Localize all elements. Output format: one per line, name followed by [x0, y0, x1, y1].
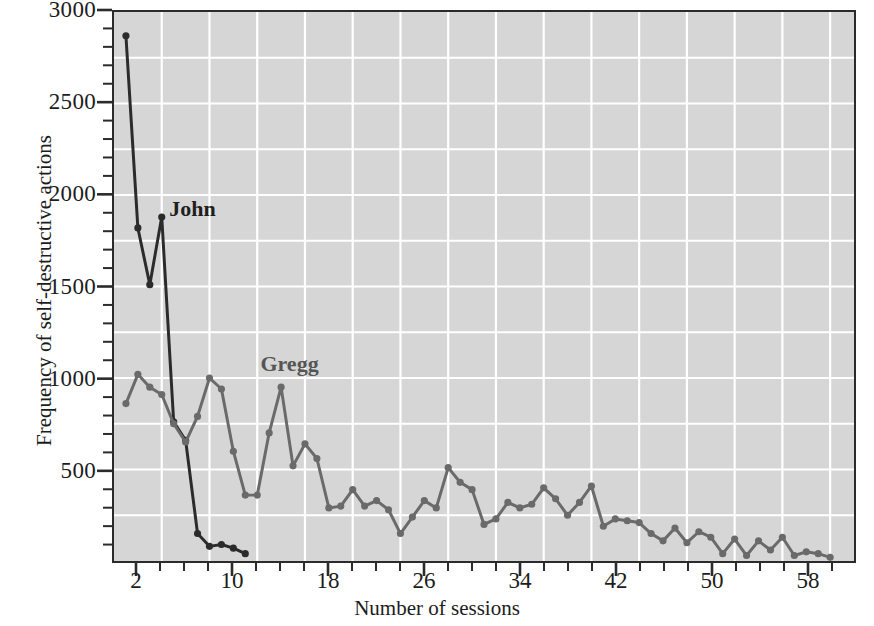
series-layer: [114, 12, 854, 561]
series-label-gregg: Gregg: [260, 351, 318, 377]
x-tick-label: 2: [130, 568, 142, 594]
x-axis-title: Number of sessions: [0, 596, 874, 621]
y-tick-label: 3000: [49, 0, 96, 23]
plot-area: John Gregg: [112, 10, 856, 563]
y-tick-label: 500: [61, 458, 96, 484]
x-tick-label: 34: [509, 568, 532, 594]
x-tick-label: 58: [797, 568, 820, 594]
x-tick-label: 10: [221, 568, 244, 594]
x-tick-label: 18: [317, 568, 340, 594]
y-axis-title: Frequency of self-destructive actions: [32, 31, 57, 551]
chart-figure: John Gregg 50010001500200025003000 Frequ…: [0, 0, 874, 626]
x-axis-tick-labels: 210182634425058: [112, 568, 856, 598]
x-tick-label: 50: [701, 568, 724, 594]
series-label-john: John: [169, 196, 215, 222]
x-tick-label: 42: [605, 568, 628, 594]
x-tick-label: 26: [413, 568, 436, 594]
